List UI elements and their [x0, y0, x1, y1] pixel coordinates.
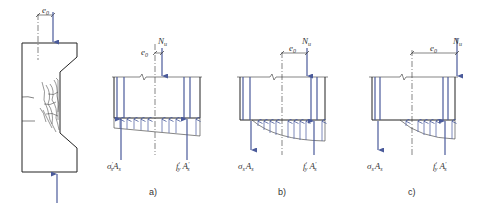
- left-force-label: σsAs: [238, 161, 254, 172]
- column-outline: [22, 43, 77, 172]
- load-label: Nu: [301, 36, 311, 47]
- column-ecc-label: e0: [42, 5, 49, 16]
- compression-arrows: [258, 121, 322, 141]
- right-force-label: f′yA′s: [303, 161, 317, 172]
- compression-arrows: [120, 119, 196, 135]
- ecc-label: e0: [141, 47, 148, 58]
- stress-block-curved: [400, 120, 455, 139]
- panel-caption: b): [278, 187, 286, 197]
- ecc-label: e0: [430, 43, 437, 54]
- eccentric-compression-diagram: e0: [0, 0, 478, 213]
- panel-b: Nu e0 σsAs f′yA′s b): [237, 36, 328, 197]
- section-break-line: [369, 74, 458, 80]
- panel-caption: a): [149, 187, 157, 197]
- left-force-label: σsAs: [367, 161, 383, 172]
- panel-caption: c): [408, 187, 416, 197]
- right-force-label: f′yA′s: [176, 161, 190, 172]
- load-label: Nu: [452, 36, 462, 47]
- ecc-label: e0: [289, 43, 296, 54]
- panel-c: Nu e0 σsAs f′yA′s c): [367, 36, 462, 197]
- crushing-zone: [40, 78, 59, 132]
- load-label: Nu: [157, 36, 167, 47]
- panel-a: Nu e0 σ′sAs f′yA′s a): [107, 36, 202, 197]
- section-break-line: [237, 74, 328, 80]
- right-force-label: f′yA′s: [433, 161, 447, 172]
- column-specimen: e0: [22, 5, 77, 203]
- crack-mark: [22, 97, 34, 98]
- left-force-label: σ′sAs: [107, 161, 122, 172]
- section-break-line: [112, 74, 202, 80]
